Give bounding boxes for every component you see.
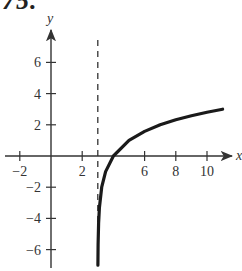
y-tick-label: −2	[26, 180, 41, 195]
function-curve	[98, 109, 223, 265]
x-tick-label: 6	[141, 164, 148, 179]
y-tick-label: 6	[34, 55, 41, 70]
curve-path	[98, 109, 223, 265]
graph: xy−226810642−2−4−6	[0, 0, 242, 271]
x-tick-label: −2	[12, 164, 27, 179]
y-tick-label: −6	[26, 243, 41, 258]
y-axis-label: y	[45, 11, 54, 26]
y-tick-label: 2	[34, 118, 41, 133]
y-tick-label: −4	[26, 211, 41, 226]
y-tick-label: 4	[34, 87, 41, 102]
tick-labels: xy−226810642−2−4−6	[12, 11, 242, 258]
x-tick-label: 8	[172, 164, 179, 179]
x-axis-label: x	[235, 148, 242, 163]
x-tick-label: 2	[79, 164, 86, 179]
x-tick-label: 10	[200, 164, 214, 179]
